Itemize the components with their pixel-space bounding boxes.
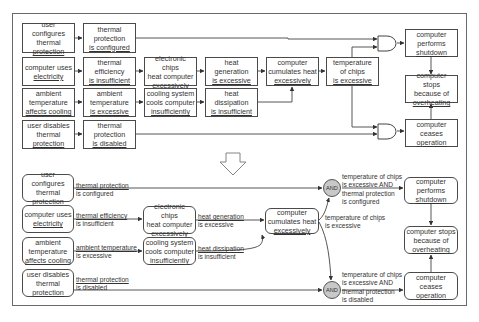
node-text-line: ceases — [417, 129, 447, 138]
and-node-top: AND — [323, 179, 341, 197]
edge-label-line: heat dissipation — [198, 245, 244, 253]
node-text-line: excessively — [268, 226, 317, 235]
node-text-line: cooling system — [145, 238, 194, 247]
node-text-line: is excessive — [90, 107, 129, 116]
edge-label-line: is excessive — [325, 222, 385, 230]
node-text-line: efficiency — [89, 67, 130, 76]
diagram-canvas: user configuresthermalprotectionthermalp… — [0, 0, 479, 322]
node-text-line: thermal — [24, 188, 72, 197]
edge-label-line: is excessive — [198, 221, 244, 229]
node-text-line: computer — [417, 120, 447, 129]
edge-label-line: is insufficient — [76, 220, 127, 228]
node-t-cumulates: computercumulates heatexcessively — [266, 57, 319, 86]
node-text-line: thermal — [24, 38, 73, 47]
edge-label-line: is insufficient — [198, 253, 244, 261]
edge-label-l-heat-gen: heat generationis excessive — [198, 213, 244, 230]
node-text-line: excessively — [268, 76, 317, 85]
node-text-line: is insufficient — [211, 107, 252, 116]
edge-label-line: ambient temperature — [76, 244, 137, 252]
edge-label-line: thermal protection — [76, 276, 129, 284]
edge-label-l-th-eff: thermal efficiencyis insufficient — [76, 212, 127, 229]
and-gate-bottom-icon — [378, 124, 396, 139]
node-text-line: temperature — [25, 247, 71, 256]
and-node-bottom: AND — [323, 281, 341, 299]
node-t-th-eff: thermalefficiencyis insufficient — [83, 57, 136, 86]
node-text-line: operation — [417, 138, 447, 147]
edge-label-l-heat-diss: heat dissipationis insufficient — [198, 245, 244, 262]
node-text-line: cumulates heat — [268, 217, 317, 226]
node-t-amb-exc: ambienttemperatureis excessive — [83, 88, 136, 117]
node-text-line: heat computer — [146, 72, 195, 81]
node-b-ambient: ambienttemperatureaffects cooling — [22, 237, 74, 265]
edge-label-l-amb-exc: ambient temperatureis excessive — [76, 244, 137, 261]
node-t-temp-chips: temperatureof chipsis excessive — [326, 57, 379, 86]
node-text-line: cools computer — [145, 247, 194, 256]
node-text-line: computer — [268, 58, 317, 67]
edge-label-line: temperature of chips — [325, 214, 385, 222]
node-text-line: cools computer — [146, 98, 195, 107]
node-t-chips-heat: electronic chipsheat computerexcessively — [144, 57, 197, 86]
node-t-ambient: ambienttemperatureaffects cooling — [22, 88, 75, 117]
node-b-cumulates: computercumulates heatexcessively — [265, 208, 319, 234]
edge-label-line: is disabled — [342, 296, 402, 304]
edge-label-line: is configured — [76, 190, 129, 198]
node-text-line: protection — [27, 139, 69, 148]
node-text-line: heat — [211, 89, 252, 98]
node-text-line: overheating — [406, 245, 455, 254]
node-text-line: user disables — [27, 121, 69, 130]
node-text-line: overheating — [407, 98, 456, 107]
edge-label-line: is disabled — [76, 284, 129, 292]
and-gate-top-icon — [378, 36, 396, 51]
node-text-line: protection — [89, 34, 130, 43]
node-text-line: thermal — [89, 58, 130, 67]
node-text-line: dissipation — [211, 98, 252, 107]
node-b-ceases: computerceasesoperation — [404, 272, 458, 300]
node-text-line: affects cooling — [25, 256, 71, 265]
edge-label-line: temperature of chips — [342, 271, 402, 279]
node-text-line: performs — [416, 186, 447, 195]
node-t-tp-dis: thermalprotectionis disabled — [83, 120, 136, 149]
node-text-line: temperature — [26, 98, 72, 107]
node-text-line: cumulates heat — [268, 67, 317, 76]
node-b-chips-heat: electronic chipsheat computerexcessively — [143, 206, 196, 234]
node-text-line: is excessive — [212, 76, 251, 85]
edge-label-l-tp-cfg: thermal protectionis configured — [76, 182, 129, 199]
node-text-line: affects cooling — [26, 107, 72, 116]
node-text-line: heat — [212, 58, 251, 67]
node-b-stops: computer stopsbecause ofoverheating — [404, 226, 458, 254]
node-text-line: operation — [416, 291, 446, 300]
node-text-line: thermal — [27, 279, 69, 288]
node-text-line: generation — [212, 67, 251, 76]
node-text-line: insufficiently — [146, 107, 195, 116]
node-text-line: ambient — [26, 89, 72, 98]
node-text-line: computer stops — [406, 227, 455, 236]
edge-label-l-temp-chips: temperature of chipsis excessive — [325, 214, 385, 231]
node-text-line: computer stops — [407, 71, 456, 89]
node-text-line: temperature — [90, 98, 129, 107]
node-b-shutdown: computerperformsshutdown — [404, 177, 458, 204]
edge-label-line: is excessive AND — [342, 279, 402, 287]
node-text-line: ambient — [90, 89, 129, 98]
node-text-line: electricity — [25, 72, 72, 81]
node-text-line: protection — [27, 288, 69, 297]
node-text-line: performs — [416, 39, 447, 48]
edge-label-line: thermal efficiency — [76, 212, 127, 220]
node-t-uses-elec: computer useselectricity — [22, 57, 75, 86]
node-text-line: user configures — [24, 20, 73, 38]
edge-label-l-and-bot: temperature of chipsis excessive ANDther… — [342, 271, 402, 305]
edge-label-line: thermal protection — [342, 288, 402, 296]
node-t-heat-gen: heatgenerationis excessive — [205, 57, 258, 86]
node-text-line: shutdown — [416, 48, 447, 57]
edge-label-line: is excessive — [76, 252, 137, 260]
node-text-line: ceases — [416, 282, 446, 291]
node-b-user-dis: user disablesthermalprotection — [22, 269, 74, 297]
node-text-line: shutdown — [416, 195, 447, 204]
transform-down-arrow-icon — [220, 153, 246, 175]
node-t-user-cfg: user configuresthermalprotection — [22, 23, 75, 53]
node-text-line: because of — [406, 236, 455, 245]
node-text-line: is disabled — [93, 139, 127, 148]
node-text-line: computer uses — [24, 210, 71, 219]
node-text-line: is excessive — [333, 76, 372, 85]
node-b-user-cfg: user configuresthermalprotection — [22, 174, 74, 202]
node-text-line: user disables — [27, 270, 69, 279]
